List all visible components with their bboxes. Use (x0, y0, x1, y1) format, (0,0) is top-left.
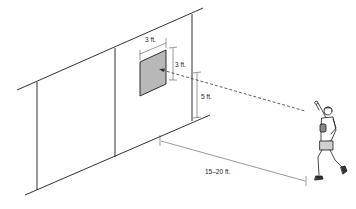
dimension-throw-distance (160, 135, 306, 186)
wall (17, 8, 210, 195)
throwing-player-figure (315, 101, 347, 180)
wall-top-edge (17, 8, 203, 90)
square-target (140, 50, 166, 96)
label-target-height: 3 ft. (175, 61, 186, 68)
diagram-drawing (0, 0, 356, 209)
dimension-target-elevation (193, 72, 201, 118)
throwing-drill-diagram: 3 ft. 3 ft. 5 ft. 15–20 ft. (0, 0, 356, 209)
label-target-width: 3 ft. (145, 36, 156, 43)
throw-path (159, 69, 305, 112)
wall-bottom-edge (25, 115, 210, 195)
label-target-elevation: 5 ft. (201, 93, 212, 100)
label-throw-distance: 15–20 ft. (205, 168, 230, 175)
